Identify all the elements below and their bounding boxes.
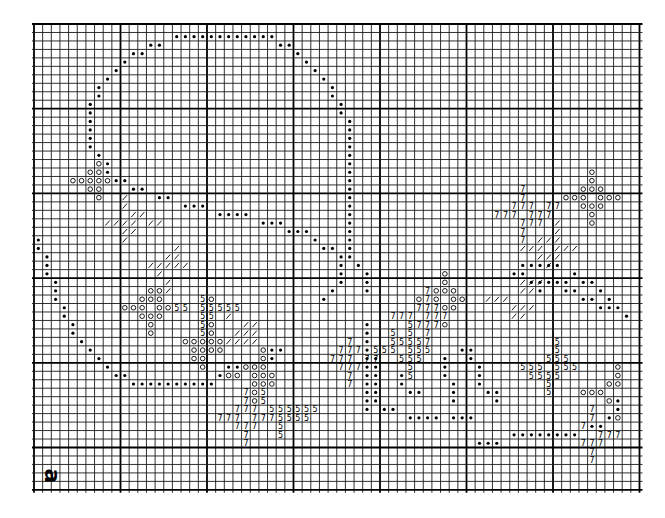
stitch-slash (166, 280, 170, 285)
stitch-dot (599, 306, 602, 309)
stitch-o (616, 365, 621, 370)
stitch-slash (529, 288, 533, 293)
stitch-dot (469, 348, 472, 351)
stitch-dot (365, 399, 368, 402)
stitch-o (79, 178, 84, 183)
stitch-dot (123, 179, 126, 182)
stitch-o (157, 289, 162, 294)
stitch-slash (555, 237, 559, 242)
stitch-dot (365, 281, 368, 284)
stitch-slash (512, 314, 516, 319)
stitch-seven: 7 (520, 236, 525, 245)
stitch-slash (157, 263, 161, 268)
stitch-dot (106, 365, 109, 368)
stitch-dot (348, 238, 351, 241)
stitch-dot (608, 306, 611, 309)
stitch-o (252, 382, 257, 387)
stitch-o (270, 382, 275, 387)
stitch-o (261, 373, 266, 378)
stitch-o (607, 195, 612, 200)
stitch-o (157, 314, 162, 319)
stitch-o (590, 170, 595, 175)
stitch-o (105, 178, 110, 183)
stitch-seven: 7 (589, 414, 594, 423)
stitch-seven: 7 (416, 321, 421, 330)
stitch-dot (573, 433, 576, 436)
stitch-dot (339, 255, 342, 258)
stitch-o (226, 373, 231, 378)
stitch-slash (521, 314, 525, 319)
stitch-seven: 7 (217, 414, 222, 423)
stitch-slash (175, 263, 179, 268)
stitch-dot (80, 340, 83, 343)
stitch-five: 5 (546, 355, 551, 364)
stitch-dot (331, 86, 334, 89)
stitch-o (140, 305, 145, 310)
stitch-o (97, 170, 102, 175)
stitch-slash (529, 305, 533, 310)
stitch-dot (461, 348, 464, 351)
stitch-o (581, 390, 586, 395)
stitch-five: 5 (287, 414, 292, 423)
stitch-dot (106, 171, 109, 174)
stitch-dot (339, 103, 342, 106)
stitch-seven: 7 (330, 355, 335, 364)
stitch-dot (339, 272, 342, 275)
stitch-dot (262, 35, 265, 38)
stitch-dot (608, 298, 611, 301)
stitch-dot (45, 255, 48, 258)
stitch-o (598, 195, 603, 200)
stitch-o (434, 289, 439, 294)
stitch-dot (115, 179, 118, 182)
stitch-slash (252, 331, 256, 336)
stitch-dot (175, 382, 178, 385)
stitch-dot (495, 442, 498, 445)
stitch-o (131, 305, 136, 310)
stitch-dot (54, 289, 57, 292)
stitch-dot (625, 315, 628, 318)
stitch-seven: 7 (555, 202, 560, 211)
stitch-seven: 7 (442, 312, 447, 321)
stitch-o (218, 339, 223, 344)
stitch-dot (71, 332, 74, 335)
stitch-dot (348, 145, 351, 148)
stitch-dot (106, 77, 109, 80)
stitch-dot (521, 433, 524, 436)
stitch-o (607, 399, 612, 404)
stitch-slash (538, 237, 542, 242)
stitch-o (616, 416, 621, 421)
stitch-o (148, 289, 153, 294)
stitch-o (252, 365, 257, 370)
stitch-o (218, 348, 223, 353)
stitch-slash (529, 246, 533, 251)
stitch-dot (63, 306, 66, 309)
stitch-slash (123, 229, 127, 234)
stitch-o (209, 331, 214, 336)
stitch-dot (564, 289, 567, 292)
stitch-dot (400, 374, 403, 377)
stitch-o (97, 161, 102, 166)
stitch-five: 5 (217, 304, 222, 313)
stitch-dot (184, 382, 187, 385)
stitch-slash (149, 263, 153, 268)
stitch-o (209, 339, 214, 344)
stitch-slash (555, 246, 559, 251)
stitch-o (261, 365, 266, 370)
stitch-five: 5 (209, 312, 214, 321)
stitch-o (97, 195, 102, 200)
stitch-dot (54, 281, 57, 284)
stitch-slash (140, 212, 144, 217)
stitch-dot (201, 35, 204, 38)
stitch-dot (348, 247, 351, 250)
stitch-seven: 7 (607, 431, 612, 440)
stitch-dot (374, 399, 377, 402)
stitch-o (590, 390, 595, 395)
stitch-dot (478, 374, 481, 377)
stitch-dot (365, 272, 368, 275)
stitch-slash (564, 246, 568, 251)
stitch-o (607, 382, 612, 387)
stitch-slash (226, 339, 230, 344)
stitch-o (140, 314, 145, 319)
stitch-dot (417, 391, 420, 394)
stitch-o (123, 305, 128, 310)
